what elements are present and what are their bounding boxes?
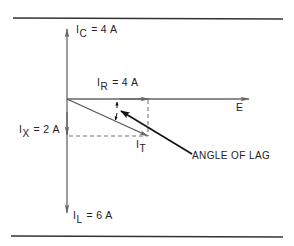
ic-label: IC=4 A	[76, 24, 117, 35]
phasor-diagram: IC=4 A IR=4 A IX=2 A IL=6 A IT E ANGLE O…	[0, 0, 294, 246]
bottom-border	[11, 236, 283, 237]
top-border	[13, 18, 283, 19]
ix-label: IX=2 A	[19, 124, 60, 135]
angle-of-lag-leader	[121, 111, 192, 154]
il-label: IL=6 A	[73, 210, 113, 221]
e-label: E	[236, 102, 244, 113]
angle-arrow-down	[116, 113, 118, 120]
it-label: IT	[136, 139, 147, 150]
it-vector	[67, 99, 148, 136]
angle-of-lag-label: ANGLE OF LAG	[192, 151, 270, 161]
ir-label: IR=4 A	[97, 77, 138, 88]
